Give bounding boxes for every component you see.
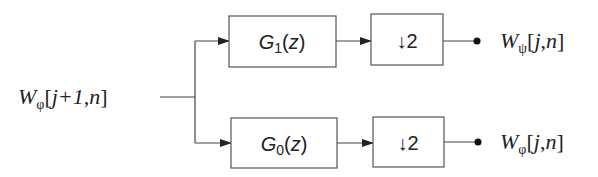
input-label: Wφ[j+1,n] [18,84,108,112]
g1-label: G1(z) [259,31,306,56]
output-node-top [474,38,481,45]
output-label-bottom: Wφ[j,n] [500,129,564,157]
filter-bank-diagram: Wφ[j+1,n] G1(z) ↓2 Wψ[j,n] G0(z) ↓2 Wφ[j… [0,0,598,177]
downsample-label-top: ↓2 [396,30,417,52]
g0-label: G0(z) [261,133,308,158]
downsample-label-bottom: ↓2 [397,132,418,154]
output-label-top: Wψ[j,n] [500,28,564,56]
output-node-bottom [475,139,482,146]
